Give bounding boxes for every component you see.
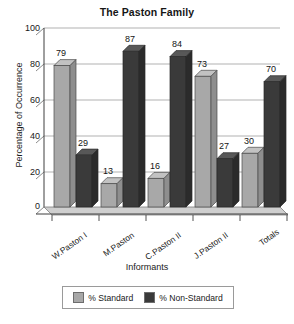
x-axis-title: Informants (0, 262, 294, 272)
legend-entry-standard: % Standard (73, 292, 133, 303)
bar-value-j-paston-ii-nonstandard: 27 (211, 141, 237, 151)
x-axis-ticks (52, 215, 287, 221)
bar-c-paston-ii-standard (148, 172, 170, 207)
bar-w-paston-i-nonstandard (76, 149, 98, 207)
bar-m-paston-nonstandard (123, 45, 145, 207)
legend-label-nonstandard: % Non-Standard (159, 293, 223, 303)
bar-value-w-paston-i-standard: 79 (48, 48, 74, 58)
bar-value-c-paston-ii-standard: 16 (142, 161, 168, 171)
axis-depth-elbows (36, 28, 44, 214)
bar-value-c-paston-ii-nonstandard: 84 (164, 39, 190, 49)
legend-label-standard: % Standard (88, 293, 133, 303)
legend-swatch-nonstandard (144, 292, 155, 303)
bar-value-m-paston-standard: 13 (95, 166, 121, 176)
bar-totals-standard (242, 147, 264, 207)
bar-j-paston-ii-standard (195, 70, 217, 207)
legend-swatch-standard (73, 292, 84, 303)
bar-value-w-paston-i-nonstandard: 29 (70, 138, 96, 148)
bar-value-m-paston-nonstandard: 87 (117, 34, 143, 44)
legend-entry-nonstandard: % Non-Standard (144, 292, 223, 303)
bar-m-paston-standard (101, 178, 123, 207)
bar-c-paston-ii-nonstandard (170, 51, 192, 207)
bar-value-j-paston-ii-standard: 73 (189, 59, 215, 69)
chart-container: The Paston Family Percentage of Occurren… (0, 0, 294, 324)
chart-legend: % Standard % Non-Standard (62, 286, 234, 309)
bar-value-totals-nonstandard: 70 (258, 64, 284, 74)
bar-j-paston-ii-nonstandard (217, 153, 239, 207)
bar-totals-nonstandard (264, 76, 286, 207)
bar-w-paston-i-standard (54, 60, 76, 207)
bar-value-totals-standard: 30 (236, 136, 262, 146)
